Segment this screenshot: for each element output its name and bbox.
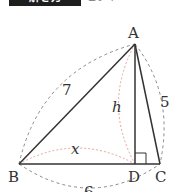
label-side-bd: x: [71, 140, 80, 158]
label-vertex-d: D: [128, 168, 140, 186]
edge-ac: [135, 44, 160, 164]
label-side-ac: 5: [160, 93, 170, 111]
label-side-ad: h: [112, 98, 122, 116]
label-vertex-c: C: [155, 168, 166, 186]
right-angle-icon: [135, 153, 146, 164]
label-vertex-a: A: [127, 24, 139, 42]
label-side-bc: 6: [84, 183, 94, 192]
label-side-ab: 7: [62, 81, 72, 99]
triangle-diagram: A B D C 7 5 6 x h: [0, 0, 178, 192]
label-vertex-b: B: [8, 168, 19, 186]
